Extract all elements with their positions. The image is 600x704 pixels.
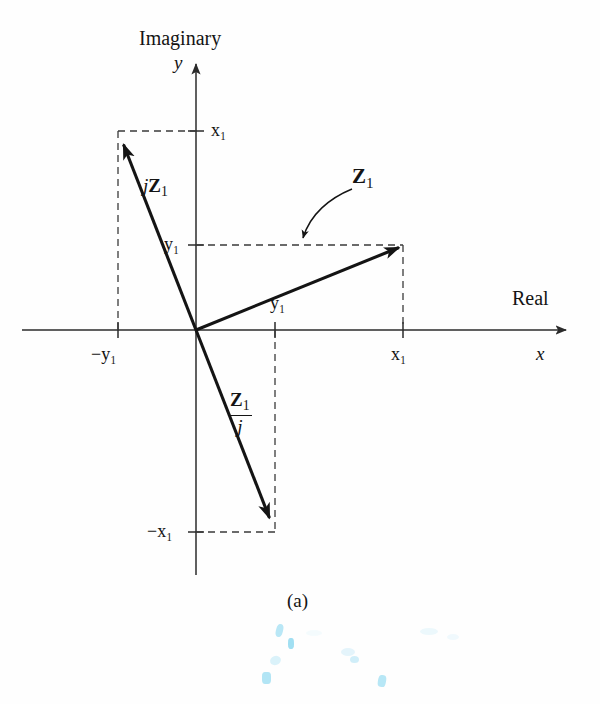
- tick-label-x-axis-positive: x₁: [391, 345, 406, 363]
- leader-arrow-z1: [303, 189, 352, 238]
- vector-label-jz1: jZ1: [143, 176, 168, 199]
- vector-label-jz1-subscript: 1: [161, 184, 168, 199]
- tick-label-y-axis-mid: y₁: [164, 235, 179, 253]
- tick-label-y-axis-positive: x₁: [211, 121, 226, 139]
- vector-label-z1-over-j: Z1 j: [228, 390, 252, 436]
- tick-label-y-axis-negative: −x₁: [147, 522, 172, 540]
- vector-label-z1-subscript: 1: [366, 175, 374, 191]
- imaginary-axis-label: Imaginary: [139, 28, 221, 48]
- fraction-denominator: j: [228, 416, 252, 437]
- vector-label-jz1-symbol: Z: [148, 175, 161, 196]
- fraction-numerator-subscript: 1: [243, 398, 250, 413]
- tick-label-x-axis-negative: −y₁: [91, 345, 116, 363]
- vector-label-z1-symbol: Z: [352, 164, 366, 188]
- vector-jz1: [124, 145, 197, 331]
- vector-label-z1: Z1: [352, 166, 374, 191]
- real-axis-variable: x: [536, 344, 544, 363]
- figure-complex-plane: Imaginary y Real x x₁ y₁ −x₁ −y₁ y₁ x₁ j…: [0, 0, 600, 704]
- fraction-numerator: Z1: [228, 390, 252, 416]
- figure-caption: (a): [287, 591, 308, 610]
- tick-label-x-axis-mid: y₁: [270, 294, 285, 312]
- imaginary-axis-variable: y: [174, 53, 182, 72]
- fraction-numerator-symbol: Z: [230, 389, 243, 410]
- vector-z1: [196, 248, 399, 331]
- real-axis-label: Real: [512, 288, 549, 308]
- fraction-z1-over-j: Z1 j: [228, 390, 252, 436]
